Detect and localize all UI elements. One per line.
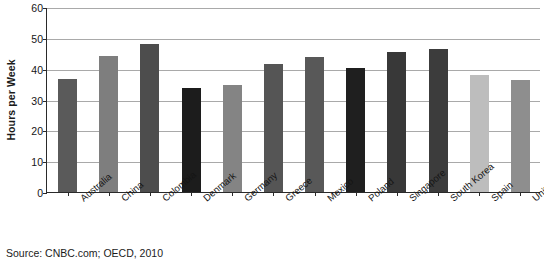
x-axis-tick-label: Spain xyxy=(489,195,496,203)
chart-figure: Hours per Week 0102030405060 AustraliaCh… xyxy=(0,0,544,272)
bar xyxy=(58,79,77,192)
x-axis-tick-labels: AustraliaChinaColombiaDenmarkGermanyGree… xyxy=(46,195,540,243)
plot-area xyxy=(46,8,540,193)
x-axis-tick-label: Singapore xyxy=(407,195,414,203)
x-axis-tick-label: Colombia xyxy=(160,195,167,203)
bar-series xyxy=(47,8,540,192)
x-axis-tick-label: United Kingdom xyxy=(530,195,537,203)
x-axis-tick-label: Mexico xyxy=(325,195,332,203)
x-axis-tick-label: Australia xyxy=(78,195,85,203)
y-axis-tick-label: 30 xyxy=(31,95,43,107)
x-axis-tick-label: Greece xyxy=(283,195,290,203)
y-axis-title: Hours per Week xyxy=(0,0,22,200)
y-axis-tick-label: 10 xyxy=(31,156,43,168)
bar xyxy=(99,56,118,192)
bar xyxy=(346,68,365,192)
y-axis-tick-label: 40 xyxy=(31,64,43,76)
y-axis-tick-label: 60 xyxy=(31,2,43,14)
x-axis-tick-label: South Korea xyxy=(448,195,455,203)
x-axis-tick-label: Poland xyxy=(366,195,373,203)
y-axis-tickmark xyxy=(43,193,47,194)
y-axis-title-text: Hours per Week xyxy=(5,59,17,140)
bar xyxy=(511,80,530,192)
bar xyxy=(387,52,406,192)
bar xyxy=(305,57,324,192)
x-axis-tick-label: Germany xyxy=(242,195,249,203)
x-axis-tick-label: Denmark xyxy=(201,195,208,203)
y-axis-tick-label: 50 xyxy=(31,33,43,45)
y-axis-tick-label: 20 xyxy=(31,125,43,137)
x-axis-tick-label: China xyxy=(119,195,126,203)
source-note: Source: CNBC.com; OECD, 2010 xyxy=(6,247,163,259)
bar xyxy=(140,44,159,192)
